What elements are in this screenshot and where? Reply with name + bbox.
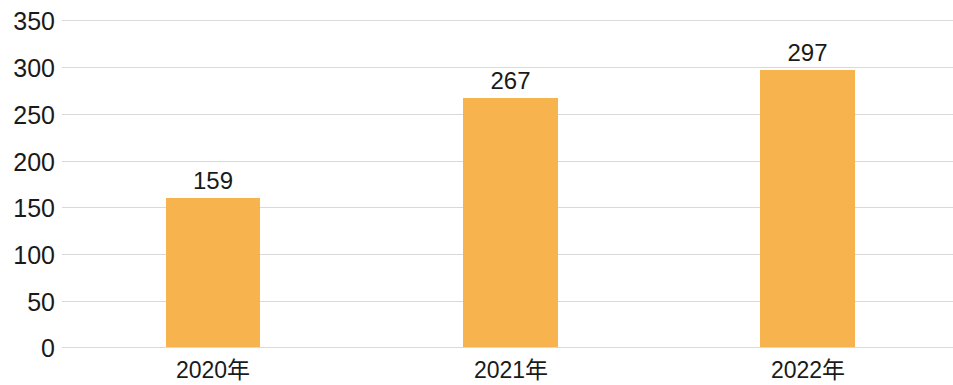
x-axis-tick-label-2021: 2021年 xyxy=(441,359,581,382)
x-axis-tick-label-2020: 2020年 xyxy=(143,359,283,382)
x-axis-tick-label-2022: 2022年 xyxy=(738,359,878,382)
y-axis-tick-label-150: 150 xyxy=(0,196,55,221)
y-axis-tick-label-250: 250 xyxy=(0,103,55,128)
gridline-0-baseline xyxy=(62,347,953,348)
y-axis-tick-label-200: 200 xyxy=(0,150,55,175)
bar-2021[interactable] xyxy=(463,98,558,347)
y-axis-tick-label-100: 100 xyxy=(0,243,55,268)
y-axis-tick-label-300: 300 xyxy=(0,56,55,81)
y-axis-tick-label-350: 350 xyxy=(0,9,55,34)
bar-value-label-2022: 297 xyxy=(760,41,855,65)
gridline-350 xyxy=(62,20,953,21)
bar-value-label-2020: 159 xyxy=(166,169,260,193)
y-axis-tick-label-0: 0 xyxy=(0,336,55,361)
bar-chart: 350 300 250 200 150 100 50 0 159 267 297… xyxy=(0,0,953,385)
bar-2022[interactable] xyxy=(760,70,855,347)
y-axis-tick-label-50: 50 xyxy=(0,290,55,315)
bar-value-label-2021: 267 xyxy=(463,69,558,93)
bar-2020[interactable] xyxy=(166,198,260,347)
